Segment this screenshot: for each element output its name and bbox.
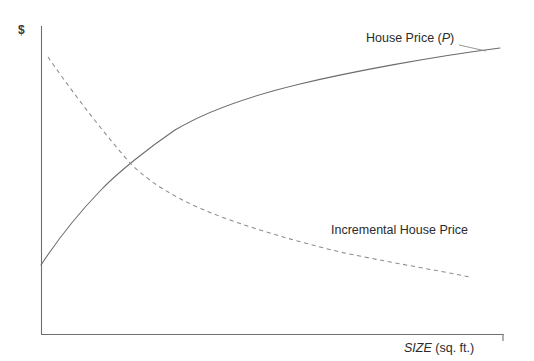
x-axis-title-emphasis: SIZE xyxy=(404,341,432,355)
series-label-house-price-prefix: House Price ( xyxy=(366,31,442,45)
series-label-house-price-symbol: P xyxy=(442,31,450,45)
series-label-incremental-house-price: Incremental House Price xyxy=(331,223,468,237)
y-axis-unit-label: $ xyxy=(18,23,25,37)
series-line-incremental-house-price xyxy=(48,57,470,277)
house-price-label-leader xyxy=(459,45,486,51)
series-label-house-price-suffix: ) xyxy=(450,31,454,45)
series-label-house-price: House Price (P) xyxy=(366,31,454,45)
x-axis-title-rest: (sq. ft.) xyxy=(432,341,474,355)
chart-plot-area xyxy=(0,0,534,361)
x-axis-title: SIZE (sq. ft.) xyxy=(404,341,474,355)
chart-figure: $ House Price (P) Incremental House Pric… xyxy=(0,0,534,361)
